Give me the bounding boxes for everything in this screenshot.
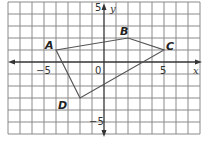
x-axis-left-arrow-icon (8, 60, 15, 65)
quadrilateral-abcd (56, 38, 164, 98)
label-d: D (58, 99, 67, 112)
label-a: A (44, 39, 54, 52)
tick-x-pos5: 5 (160, 65, 166, 76)
x-axis-label: x (193, 65, 199, 76)
y-axis-label: y (109, 3, 116, 14)
x-axis-right-arrow-icon (195, 60, 202, 65)
coordinate-plane: A B C D −5 5 0 5 −5 y x (0, 0, 207, 141)
label-c: C (166, 40, 174, 53)
y-axis-up-arrow-icon (102, 3, 107, 10)
tick-x-neg5: −5 (36, 65, 51, 76)
tick-y-pos5: 5 (95, 2, 101, 13)
label-b: B (120, 25, 128, 38)
tick-y-neg5: −5 (89, 116, 104, 127)
tick-origin: 0 (95, 65, 101, 76)
